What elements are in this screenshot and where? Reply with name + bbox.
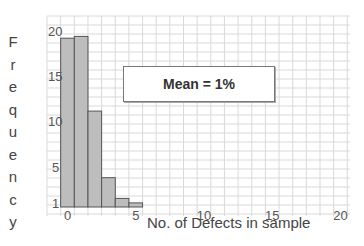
- x-tick-label: 5: [132, 208, 139, 223]
- x-axis-label: No. of Defects in sample: [147, 214, 310, 231]
- histogram-bar: [102, 178, 116, 207]
- y-tick-label: 1: [52, 196, 59, 211]
- y-axis-label-letter: u: [6, 123, 20, 140]
- y-tick-label: 5: [52, 160, 59, 175]
- x-tick-label: 20: [333, 208, 347, 223]
- histogram-bar: [74, 36, 88, 207]
- y-tick-label: 20: [48, 24, 62, 39]
- histogram-bar: [129, 203, 143, 207]
- x-tick-label: 0: [64, 208, 71, 223]
- histogram-bar: [88, 111, 102, 207]
- mean-annotation-box: Mean = 1%: [123, 66, 275, 102]
- y-tick-label: 15: [48, 69, 62, 84]
- y-axis-label-letter: F: [6, 33, 20, 50]
- y-axis-label-letter: q: [6, 101, 20, 118]
- y-axis-label-letter: e: [6, 78, 20, 95]
- y-axis-label-letter: n: [6, 168, 20, 185]
- histogram-chart: 15101520 05101520: [0, 0, 364, 246]
- mean-annotation-text: Mean = 1%: [163, 76, 235, 92]
- y-axis-label-letter: e: [6, 146, 20, 163]
- histogram-bar: [115, 198, 129, 207]
- y-tick-label: 10: [48, 114, 62, 129]
- histogram-bar: [61, 38, 75, 207]
- y-axis-label-letter: c: [6, 191, 20, 208]
- y-axis-label-letter: r: [6, 56, 20, 73]
- y-axis-label-letter: y: [6, 213, 20, 230]
